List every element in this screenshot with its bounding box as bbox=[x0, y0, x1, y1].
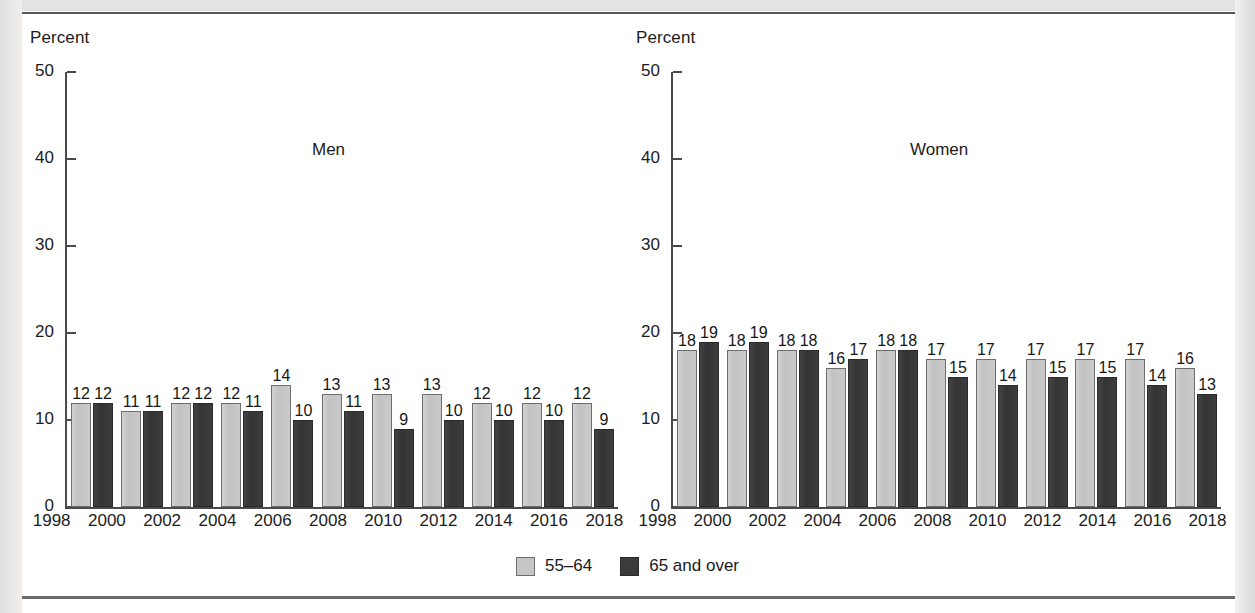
chart-panel-women: Percent Women 01020304050 18191819181816… bbox=[628, 14, 1235, 544]
legend-label-65-and-over: 65 and over bbox=[649, 556, 739, 576]
bar-value-label: 13 bbox=[1198, 377, 1216, 393]
bar-2012-55-64[interactable]: 17 bbox=[1026, 359, 1046, 507]
bar-value-label: 12 bbox=[94, 386, 112, 402]
x-axis-line bbox=[65, 507, 618, 509]
bar-2004-65-and-over[interactable]: 11 bbox=[243, 411, 263, 507]
bar-group: 1714 bbox=[972, 72, 1022, 507]
bar-value-label: 18 bbox=[678, 333, 696, 349]
x-tick-label-2002: 2002 bbox=[740, 511, 795, 531]
plot-area-women: 01020304050 1819181918181617181817151714… bbox=[671, 72, 1221, 509]
bar-2010-65-and-over[interactable]: 14 bbox=[998, 385, 1018, 507]
legend-swatch-icon-65-and-over bbox=[620, 557, 639, 576]
bars-layer-men: 1212111112121211141013111391310121012101… bbox=[67, 72, 618, 507]
bar-value-label: 10 bbox=[495, 403, 513, 419]
y-tick-label: 50 bbox=[35, 61, 54, 81]
bar-2016-65-and-over[interactable]: 10 bbox=[544, 420, 564, 507]
bar-2016-65-and-over[interactable]: 14 bbox=[1147, 385, 1167, 507]
y-tick-label: 20 bbox=[641, 322, 660, 342]
bar-group: 1212 bbox=[67, 72, 117, 507]
x-tick-label-2010: 2010 bbox=[356, 511, 411, 531]
bar-value-label: 11 bbox=[145, 394, 162, 410]
bar-2002-55-64[interactable]: 18 bbox=[777, 350, 797, 507]
bar-2006-55-64[interactable]: 18 bbox=[876, 350, 896, 507]
bar-2002-65-and-over[interactable]: 18 bbox=[799, 350, 819, 507]
bar-value-label: 17 bbox=[849, 342, 867, 358]
bar-2000-65-and-over[interactable]: 19 bbox=[749, 342, 769, 507]
bar-2010-55-64[interactable]: 17 bbox=[976, 359, 996, 507]
bar-2018-55-64[interactable]: 16 bbox=[1175, 368, 1195, 507]
x-axis-line bbox=[671, 507, 1221, 509]
bar-1998-55-64[interactable]: 12 bbox=[71, 403, 91, 507]
bar-1998-65-and-over[interactable]: 19 bbox=[699, 342, 719, 507]
bars-layer-women: 1819181918181617181817151714171517151714… bbox=[673, 72, 1221, 507]
x-tick-label-1998: 1998 bbox=[24, 511, 79, 531]
bar-2018-55-64[interactable]: 12 bbox=[572, 403, 592, 507]
bar-value-label: 9 bbox=[600, 412, 609, 428]
bar-value-label: 18 bbox=[899, 333, 917, 349]
figure-screenshot: Percent Men 01020304050 1212111112121211… bbox=[0, 0, 1255, 613]
bar-2016-55-64[interactable]: 12 bbox=[522, 403, 542, 507]
bar-2006-65-and-over[interactable]: 18 bbox=[898, 350, 918, 507]
bar-2010-65-and-over[interactable]: 9 bbox=[394, 429, 414, 507]
bar-2008-65-and-over[interactable]: 11 bbox=[344, 411, 364, 507]
bar-group: 1212 bbox=[167, 72, 217, 507]
legend-item-65-and-over[interactable]: 65 and over bbox=[620, 556, 739, 576]
x-tick-label-2016: 2016 bbox=[521, 511, 576, 531]
bar-2012-55-64[interactable]: 13 bbox=[422, 394, 442, 507]
bar-2012-65-and-over[interactable]: 10 bbox=[444, 420, 464, 507]
bar-value-label: 14 bbox=[999, 368, 1017, 384]
bar-value-label: 12 bbox=[72, 386, 90, 402]
bar-group: 139 bbox=[368, 72, 418, 507]
y-axis-title: Percent bbox=[636, 28, 695, 48]
bar-2000-55-64[interactable]: 11 bbox=[121, 411, 141, 507]
bar-2002-55-64[interactable]: 12 bbox=[171, 403, 191, 507]
bar-2008-55-64[interactable]: 13 bbox=[322, 394, 342, 507]
bar-2014-65-and-over[interactable]: 10 bbox=[494, 420, 514, 507]
bar-2004-55-64[interactable]: 16 bbox=[826, 368, 846, 507]
y-tick-label: 40 bbox=[35, 148, 54, 168]
bar-2002-65-and-over[interactable]: 12 bbox=[193, 403, 213, 507]
bar-2014-65-and-over[interactable]: 15 bbox=[1097, 377, 1117, 508]
x-tick-label-2016: 2016 bbox=[1125, 511, 1180, 531]
y-tick-label: 10 bbox=[641, 409, 660, 429]
bar-group: 1715 bbox=[1072, 72, 1122, 507]
bar-2006-55-64[interactable]: 14 bbox=[271, 385, 291, 507]
x-tick-label-2000: 2000 bbox=[79, 511, 134, 531]
bar-2008-65-and-over[interactable]: 15 bbox=[948, 377, 968, 508]
bar-value-label: 17 bbox=[977, 342, 995, 358]
bar-2004-65-and-over[interactable]: 17 bbox=[848, 359, 868, 507]
x-tick-label-2002: 2002 bbox=[135, 511, 190, 531]
bar-2018-65-and-over[interactable]: 13 bbox=[1197, 394, 1217, 507]
scan-margin-right bbox=[1235, 0, 1255, 613]
bar-value-label: 12 bbox=[194, 386, 212, 402]
bar-1998-65-and-over[interactable]: 12 bbox=[93, 403, 113, 507]
bar-2018-65-and-over[interactable]: 9 bbox=[594, 429, 614, 507]
x-tick-label-2014: 2014 bbox=[466, 511, 521, 531]
bar-2000-65-and-over[interactable]: 11 bbox=[143, 411, 163, 507]
bar-2014-55-64[interactable]: 12 bbox=[472, 403, 492, 507]
bar-value-label: 18 bbox=[728, 333, 746, 349]
bar-2008-55-64[interactable]: 17 bbox=[926, 359, 946, 507]
bar-value-label: 18 bbox=[877, 333, 895, 349]
chart-legend: 55–64 65 and over bbox=[0, 556, 1255, 576]
bar-2016-55-64[interactable]: 17 bbox=[1125, 359, 1145, 507]
bar-group: 1715 bbox=[1022, 72, 1072, 507]
bar-value-label: 19 bbox=[750, 325, 768, 341]
x-tick-label-2004: 2004 bbox=[795, 511, 850, 531]
bar-2012-65-and-over[interactable]: 15 bbox=[1048, 377, 1068, 508]
bar-2000-55-64[interactable]: 18 bbox=[727, 350, 747, 507]
bar-value-label: 11 bbox=[123, 394, 140, 410]
bar-group: 1210 bbox=[518, 72, 568, 507]
legend-label-55-64: 55–64 bbox=[545, 556, 592, 576]
bar-1998-55-64[interactable]: 18 bbox=[677, 350, 697, 507]
x-tick-label-2006: 2006 bbox=[850, 511, 905, 531]
bar-value-label: 16 bbox=[1176, 351, 1194, 367]
bar-2004-55-64[interactable]: 12 bbox=[221, 403, 241, 507]
bar-2010-55-64[interactable]: 13 bbox=[372, 394, 392, 507]
bar-2014-55-64[interactable]: 17 bbox=[1075, 359, 1095, 507]
bar-value-label: 10 bbox=[295, 403, 313, 419]
x-tick-label-1998: 1998 bbox=[630, 511, 685, 531]
y-tick-label: 50 bbox=[641, 61, 660, 81]
legend-item-55-64[interactable]: 55–64 bbox=[516, 556, 592, 576]
bar-2006-65-and-over[interactable]: 10 bbox=[293, 420, 313, 507]
